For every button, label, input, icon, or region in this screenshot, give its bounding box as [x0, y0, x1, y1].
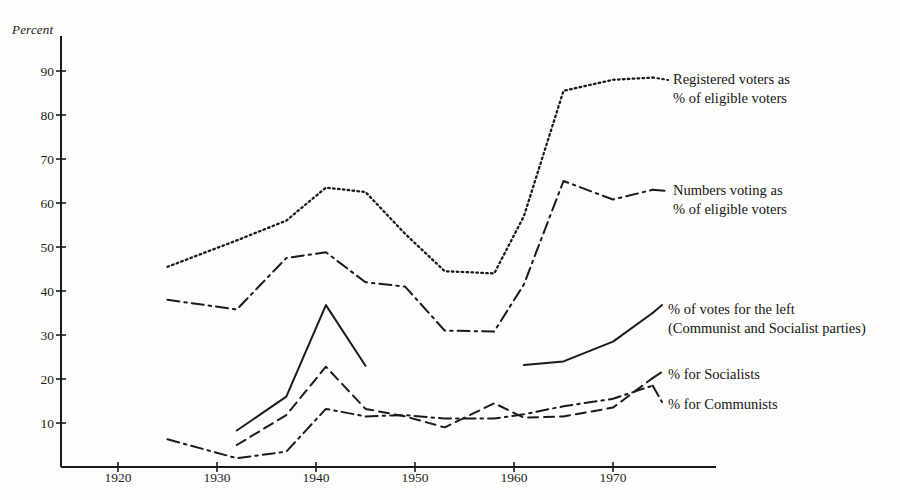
series-4	[168, 386, 653, 459]
axes	[56, 36, 716, 472]
label-leader-lines	[653, 78, 668, 402]
series-0	[168, 78, 653, 274]
series-1	[168, 181, 653, 332]
chart-figure: Percent 90 80 70 60 50 40 30 20 10 1920 …	[0, 0, 900, 500]
series-2	[237, 305, 653, 430]
series-3	[237, 367, 653, 445]
plot-area	[0, 0, 900, 500]
data-series	[168, 78, 653, 459]
